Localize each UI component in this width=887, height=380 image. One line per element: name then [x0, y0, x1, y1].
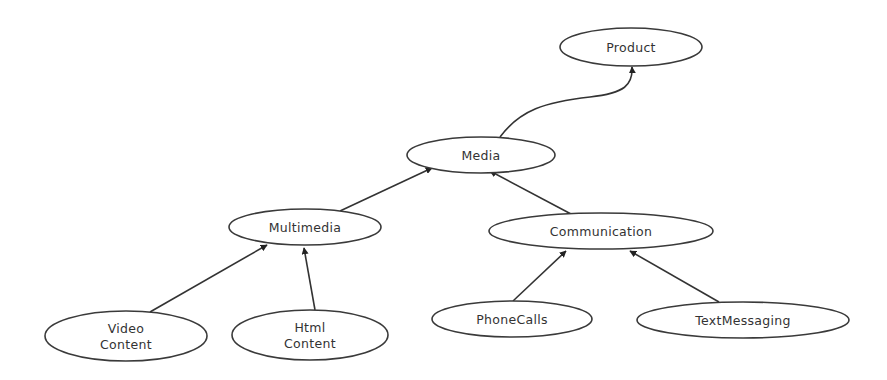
node-label: Html [294, 320, 325, 335]
edge-textmessaging-to-communication [630, 251, 719, 302]
node-label: TextMessaging [694, 313, 791, 328]
node-textmessaging[interactable]: TextMessaging [637, 302, 849, 338]
edge-phonecalls-to-communication [513, 251, 566, 301]
node-label: Communication [550, 224, 652, 239]
node-label: Multimedia [269, 220, 342, 235]
node-label: Content [284, 336, 336, 351]
node-media[interactable]: Media [407, 137, 555, 173]
node-multimedia[interactable]: Multimedia [229, 209, 381, 245]
node-label: Media [461, 148, 500, 163]
nodes-layer: ProductMediaMultimediaCommunicationVideo… [45, 28, 849, 361]
edge-html-content-to-multimedia [304, 248, 315, 310]
edge-media-to-product [500, 67, 632, 137]
diagram-canvas: ProductMediaMultimediaCommunicationVideo… [0, 0, 887, 380]
node-label: Product [606, 40, 656, 55]
edge-multimedia-to-media [340, 168, 432, 211]
node-label: Content [100, 337, 152, 352]
node-html-content[interactable]: HtmlContent [232, 310, 388, 360]
node-product[interactable]: Product [560, 28, 702, 66]
node-video-content[interactable]: VideoContent [45, 311, 207, 361]
node-label: Video [108, 321, 145, 336]
edge-communication-to-media [490, 171, 571, 214]
edge-video-content-to-multimedia [150, 245, 267, 312]
node-communication[interactable]: Communication [489, 213, 713, 249]
node-phonecalls[interactable]: PhoneCalls [432, 301, 592, 337]
node-label: PhoneCalls [476, 312, 548, 327]
edges-layer [150, 67, 719, 312]
